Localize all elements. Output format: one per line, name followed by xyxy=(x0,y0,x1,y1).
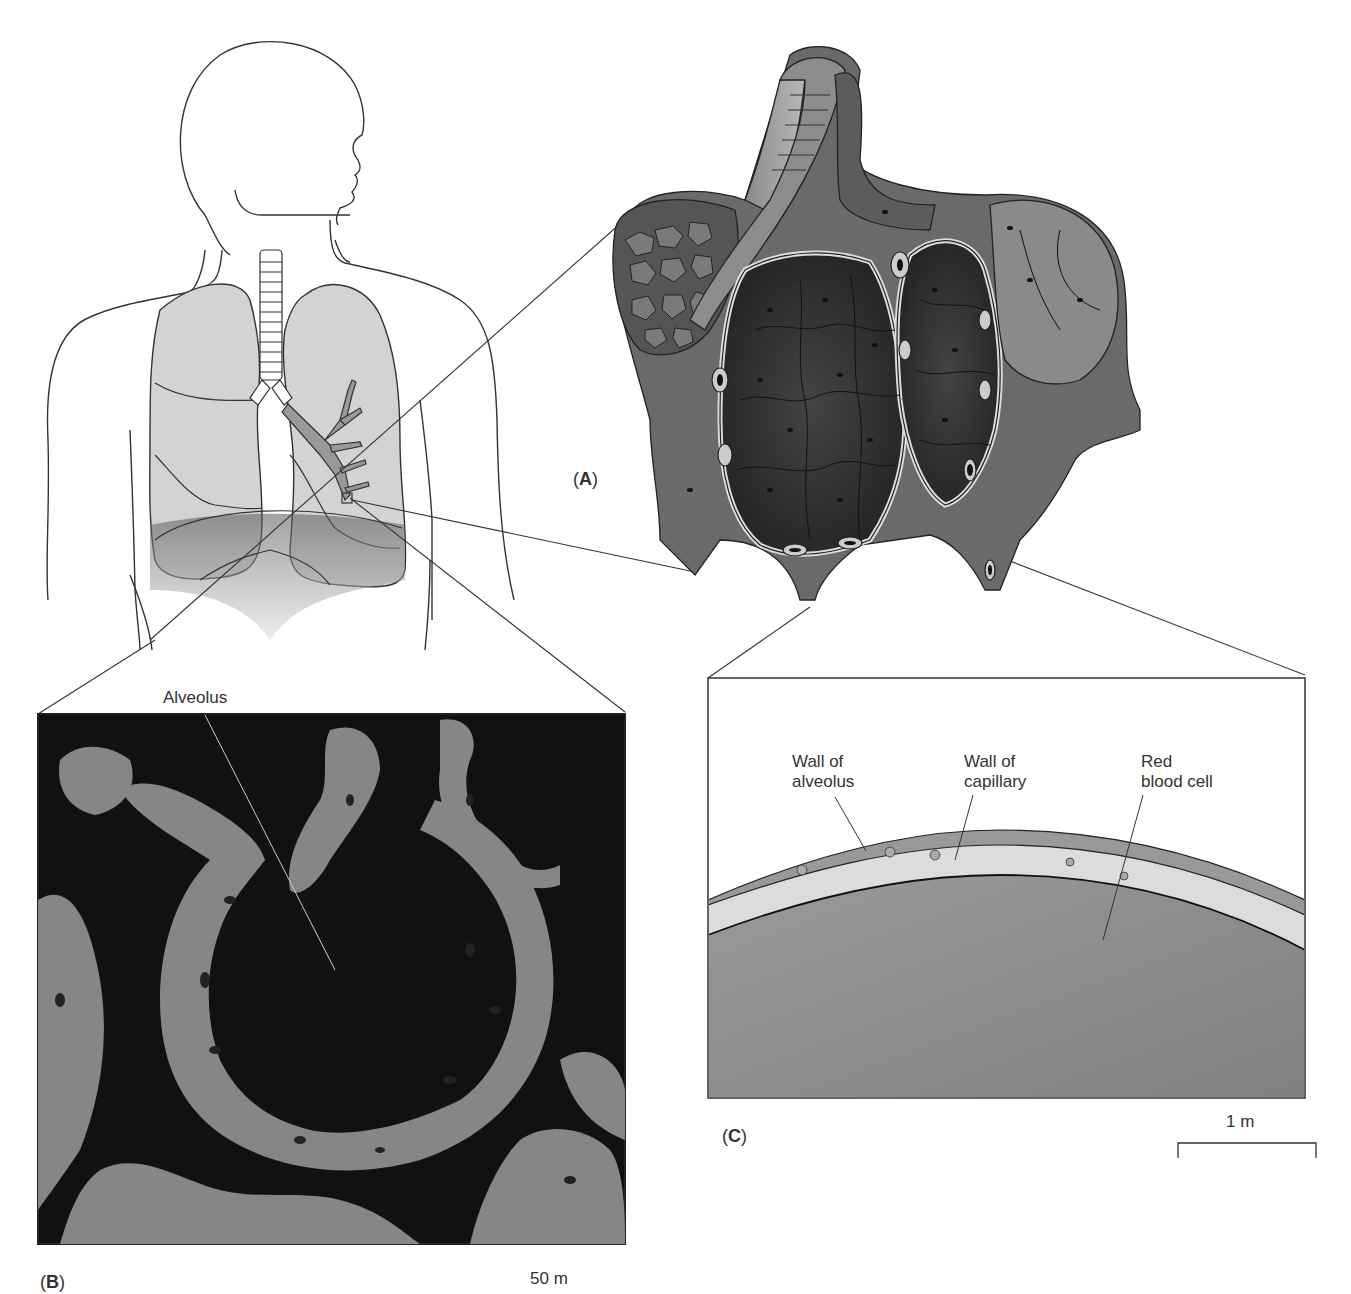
label-red-blood-cell: Red blood cell xyxy=(1141,752,1213,792)
label-alveolus: Alveolus xyxy=(163,688,227,708)
panel-label-c: (C) xyxy=(722,1126,747,1147)
label-wall-of-capillary: Wall of capillary xyxy=(964,752,1026,792)
label-wall-of-alveolus: Wall of alveolus xyxy=(792,752,854,792)
panel-label-b: (B) xyxy=(40,1272,65,1293)
alveolus-chamber-left xyxy=(720,253,905,554)
membrane-cross-section xyxy=(708,678,1305,1098)
scale-bar-c xyxy=(1178,1143,1316,1158)
alveolus-micrograph xyxy=(38,714,625,1244)
figure-canvas xyxy=(0,0,1351,1294)
alveolus-cutaway-illustration xyxy=(613,47,1140,600)
scale-label-b: 50 m xyxy=(530,1269,568,1289)
scale-label-c: 1 m xyxy=(1226,1112,1254,1132)
panel-label-a: (A) xyxy=(573,469,598,490)
lungs-illustration xyxy=(150,250,406,640)
